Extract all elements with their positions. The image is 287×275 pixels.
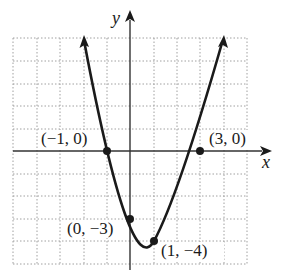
parabola-curve [85,43,223,248]
point-x-intercept-left [103,147,111,155]
y-axis-label: y [110,8,120,28]
point-x-intercept-right [196,147,204,155]
curve-arrow-right-icon [218,35,228,48]
parabola-graph: x y (−1, 0) (3, 0) (0, −3) (1, −4) [0,0,287,275]
label-x-intercept-left: (−1, 0) [41,129,87,148]
label-y-intercept: (0, −3) [67,219,113,238]
label-vertex: (1, −4) [161,241,207,260]
point-y-intercept [126,215,134,223]
x-axis-label: x [261,152,270,172]
point-vertex [150,237,158,245]
label-x-intercept-right: (3, 0) [209,129,246,148]
